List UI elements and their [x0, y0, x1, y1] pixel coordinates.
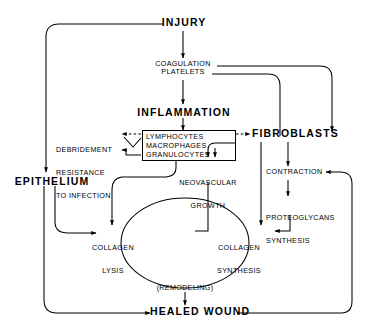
edge-cells-to-resistance — [122, 150, 141, 155]
debridement-line-3: TO INFECTION — [56, 192, 124, 200]
neovascular-line-2: GROWTH — [175, 202, 241, 210]
collagen-synthesis-line-2: SYNTHESIS — [206, 267, 272, 275]
proteoglycans-line-2: SYNTHESIS — [266, 237, 342, 245]
node-injury: INJURY — [155, 17, 213, 28]
proteoglycans-line-1: PROTEOGLYCANS — [266, 214, 342, 222]
neovascular-line-1: NEOVASCULAR — [175, 179, 241, 187]
collagen-lysis-line-1: COLLAGEN — [82, 244, 144, 252]
node-debridement: DEBRIDEMENT RESISTANCE TO INFECTION — [56, 130, 124, 215]
node-remodeling: (REMODELING) — [150, 284, 220, 292]
node-inflammation: INFLAMMATION — [133, 107, 235, 118]
cells-line-2: MACROPHAGES — [146, 141, 232, 150]
node-inflammatory-cells-box: LYMPHOCYTES MACROPHAGES GRANULOCYTES — [142, 130, 236, 161]
node-fibroblasts: FIBROBLASTS — [252, 128, 364, 139]
edge-cells-v-connector — [124, 137, 141, 147]
wound-healing-flowchart: INJURY COAGULATION PLATELETS INFLAMMATIO… — [0, 0, 366, 336]
node-healed-wound: HEALED WOUND — [150, 306, 238, 317]
node-proteoglycans-synthesis: PROTEOGLYCANS SYNTHESIS — [266, 198, 342, 260]
node-collagen-lysis: COLLAGEN LYSIS — [82, 228, 144, 290]
collagen-synthesis-line-1: COLLAGEN — [206, 244, 272, 252]
node-epithelium: EPITHELIUM — [8, 176, 96, 187]
node-neovascular-growth: NEOVASCULAR GROWTH — [175, 163, 241, 225]
node-contraction: CONTRACTION — [266, 168, 326, 176]
node-platelets: PLATELETS — [140, 68, 226, 76]
cells-line-1: LYMPHOCYTES — [146, 132, 232, 141]
node-collagen-synthesis: COLLAGEN SYNTHESIS — [206, 228, 272, 290]
cells-line-3: GRANULOCYTES — [146, 150, 232, 159]
debridement-line-1: DEBRIDEMENT — [56, 146, 124, 154]
collagen-lysis-line-2: LYSIS — [82, 267, 144, 275]
